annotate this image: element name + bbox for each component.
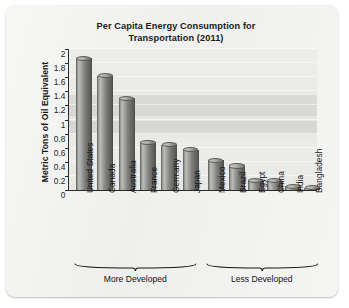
bar-cap: [162, 142, 177, 147]
y-axis-tick-mark: [65, 105, 69, 106]
gridline: [69, 62, 317, 63]
x-axis-label: Bangladesh: [314, 149, 324, 193]
figure-card: Per Capita Energy Consumption for Transp…: [6, 5, 338, 297]
x-axis-label: Egypt: [257, 172, 267, 193]
x-axis-label: India: [295, 175, 305, 193]
y-axis-tick-mark: [65, 91, 69, 92]
bar-cap: [183, 147, 198, 152]
x-axis-label: China: [276, 171, 286, 193]
bar-cap: [76, 56, 91, 61]
group-label: Less Developed: [206, 274, 319, 284]
chart-title: Per Capita Energy Consumption for Transp…: [36, 21, 316, 44]
group-bracket: [74, 263, 197, 272]
y-axis-tick-mark: [65, 190, 69, 191]
group-label: More Developed: [74, 274, 197, 284]
chart-title-line-1: Per Capita Energy Consumption for: [36, 21, 316, 33]
group-bracket: [206, 263, 319, 272]
y-axis-tick-mark: [65, 120, 69, 121]
x-axis-label: United States: [85, 143, 95, 193]
x-axis-label: Japan: [192, 170, 202, 193]
x-axis-label: Brazil: [238, 172, 248, 193]
y-axis-tick-mark: [65, 162, 69, 163]
bar-cap: [119, 96, 134, 101]
x-axis-label: Germany: [171, 159, 181, 193]
bar-cap: [98, 73, 113, 78]
bar-cap: [229, 163, 244, 168]
y-axis-tick-mark: [65, 148, 69, 149]
y-axis-tick-mark: [65, 77, 69, 78]
x-axis-label: Australia: [128, 160, 138, 193]
bar-cap: [140, 140, 155, 145]
y-axis-tick-mark: [65, 176, 69, 177]
x-axis-label: France: [149, 167, 159, 193]
y-axis-title: Metric Tons of Oil Equivalent: [40, 47, 50, 197]
y-axis-tick-mark: [65, 49, 69, 50]
chart-figure: Per Capita Energy Consumption for Transp…: [0, 0, 349, 308]
y-axis-tick-mark: [65, 63, 69, 64]
chart-title-line-2: Transportation (2011): [36, 33, 316, 45]
bar-cap: [208, 158, 223, 163]
x-axis-label: Mexico: [217, 166, 227, 193]
x-axis-label: Canada: [107, 164, 117, 193]
gridline: [69, 48, 317, 49]
y-axis-tick-mark: [65, 134, 69, 135]
